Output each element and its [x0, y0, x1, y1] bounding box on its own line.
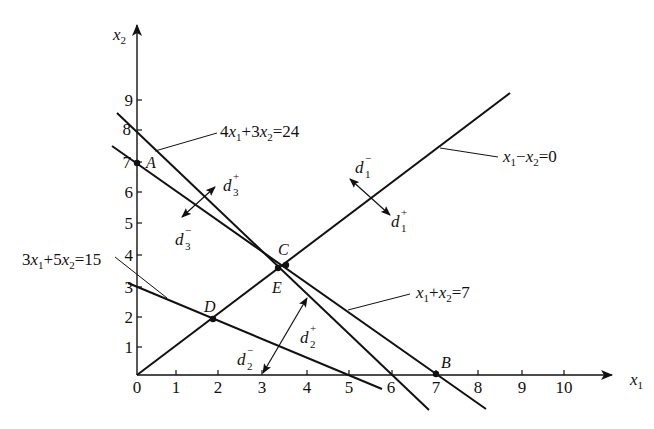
- svg-text:d: d: [391, 212, 400, 231]
- point-label-e: E: [271, 279, 282, 296]
- y-tick-label: 2: [125, 308, 134, 327]
- x-tick-label: 1: [172, 378, 181, 397]
- svg-text:2: 2: [310, 338, 316, 350]
- leader-x1-plus-x2-7: [348, 294, 410, 310]
- svg-text:+: +: [401, 206, 407, 218]
- equation-label-4x1-3x2-24: 4x1+3x2=24: [220, 122, 300, 143]
- point-b: [433, 371, 439, 377]
- x-tick-label: 7: [432, 378, 441, 397]
- x-tick-label: 9: [518, 378, 527, 397]
- point-label-d: D: [203, 298, 216, 315]
- svg-text:d: d: [175, 230, 184, 249]
- deviation-label-d1-plus: d + 1: [391, 206, 407, 234]
- x-tick-label: 0: [133, 378, 142, 397]
- svg-text:3: 3: [185, 240, 191, 252]
- leader-x1-x2-0: [440, 148, 498, 157]
- y-tick-label: 1: [125, 338, 134, 357]
- y-tick-labels: 1 2 3 4 5 6 7 8 9: [123, 91, 134, 357]
- x-tick-label: 3: [258, 378, 267, 397]
- deviation-label-d2-plus: d + 2: [300, 322, 316, 350]
- point-a: [134, 160, 140, 166]
- point-label-c: C: [278, 241, 289, 258]
- svg-text:d: d: [237, 350, 246, 369]
- point-label-b: B: [441, 354, 451, 371]
- svg-text:1: 1: [365, 168, 371, 180]
- y-tick-label: 6: [125, 183, 134, 202]
- line-x1-plus-x2-7: [112, 146, 486, 409]
- point-c: [283, 262, 289, 268]
- x-tick-label: 10: [556, 378, 573, 397]
- svg-text:−: −: [365, 152, 371, 164]
- line-3x1-5x2-15: [128, 283, 382, 389]
- y-tick-label: 3: [125, 278, 134, 297]
- svg-text:−: −: [185, 224, 191, 236]
- svg-text:3: 3: [233, 186, 239, 198]
- equation-label-x1-plus-x2-7: x1+x2=7: [415, 283, 470, 304]
- leader-4x1-3x2-24: [155, 133, 217, 151]
- point-e: [275, 265, 281, 271]
- x1-axis-label: x1: [629, 370, 643, 391]
- leader-3x1-5x2-15: [115, 257, 167, 298]
- y-tick-label: 5: [125, 214, 134, 233]
- svg-text:−: −: [247, 344, 253, 356]
- equation-label-3x1-5x2-15: 3x1+5x2=15: [22, 250, 101, 271]
- point-d: [210, 316, 216, 322]
- x-tick-label: 4: [303, 378, 312, 397]
- equation-label-x1-x2-0: x1−x2=0: [502, 147, 557, 168]
- x2-axis-label: x2: [112, 25, 126, 46]
- y-tick-label: 4: [125, 246, 134, 265]
- x-tick-labels: 0 1 2 3 4 5 6 7 8 9 10: [133, 378, 573, 397]
- x-tick-label: 6: [387, 378, 396, 397]
- x-tick-label: 8: [474, 378, 483, 397]
- svg-text:1: 1: [401, 222, 407, 234]
- svg-text:+: +: [310, 322, 316, 334]
- svg-text:+: +: [233, 170, 239, 182]
- goal-programming-graph: x1 x2 0 1 2 3 4 5 6 7 8 9 10: [0, 0, 654, 429]
- y-tick-label: 9: [125, 91, 134, 110]
- x-tick-label: 2: [214, 378, 223, 397]
- x-tick-label: 5: [345, 378, 354, 397]
- x-ticks: [176, 370, 564, 375]
- axes: x1 x2 0 1 2 3 4 5 6 7 8 9 10: [112, 25, 643, 397]
- svg-text:d: d: [223, 176, 232, 195]
- deviation-label-d2-minus: d − 2: [237, 344, 253, 372]
- line-4x1-3x2-24: [117, 113, 429, 410]
- line-x1-x2-0: [137, 93, 510, 375]
- svg-text:d: d: [355, 158, 364, 177]
- svg-text:d: d: [300, 328, 309, 347]
- deviation-label-d3-minus: d − 3: [175, 224, 191, 252]
- deviation-label-d1-minus: d − 1: [355, 152, 371, 180]
- point-label-a: A: [145, 154, 156, 171]
- svg-text:2: 2: [247, 360, 253, 372]
- deviation-label-d3-plus: d + 3: [223, 170, 239, 198]
